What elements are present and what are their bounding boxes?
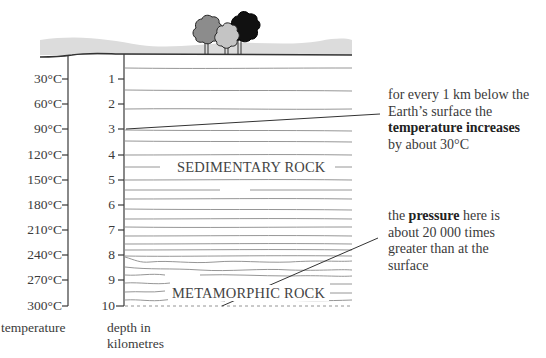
pressure-annotation-pre: the	[388, 208, 409, 223]
depth-axis-title-line1: depth in	[107, 320, 151, 336]
temperature-tick-label: 120°C	[0, 148, 62, 162]
temperature-tick-label: 300°C	[0, 299, 62, 313]
temperature-tick-label: 210°C	[0, 223, 62, 237]
depth-tick-label: 4	[101, 148, 115, 162]
depth-tick-label: 9	[101, 273, 115, 287]
earth-cross-section	[0, 0, 546, 358]
temperature-annotation-line2: Earth’s surface the	[388, 104, 546, 121]
depth-axis-line	[116, 54, 124, 306]
depth-tick-label: 1	[101, 72, 115, 86]
pressure-annotation-line4: surface	[388, 258, 546, 275]
temperature-annotation-line1: for every 1 km below the	[388, 87, 546, 104]
depth-tick-label: 8	[101, 248, 115, 262]
temperature-annotation-line4: by about 30°C	[388, 137, 546, 154]
pressure-annotation-post: here is	[459, 208, 499, 223]
temperature-tick-label: 150°C	[0, 173, 62, 187]
temperature-tick-label: 60°C	[0, 97, 62, 111]
depth-axis-title-line2: kilometres	[107, 336, 164, 352]
pressure-annotation: the pressure here is about 20 000 times …	[388, 208, 546, 274]
depth-tick-label: 7	[101, 223, 115, 237]
sedimentary-rock-label: SEDIMENTARY ROCK	[173, 159, 330, 175]
temperature-tick-label: 270°C	[0, 273, 62, 287]
temperature-tick-label: 90°C	[0, 122, 62, 136]
temperature-leader-line	[126, 114, 380, 129]
strata-lines	[125, 68, 352, 301]
depth-tick-label: 2	[101, 97, 115, 111]
temperature-annotation: for every 1 km below the Earth’s surface…	[388, 87, 546, 153]
depth-tick-label: 3	[101, 122, 115, 136]
temperature-tick-label: 180°C	[0, 198, 62, 212]
temperature-increases-emphasis: temperature increases	[388, 120, 520, 135]
temperature-tick-label: 240°C	[0, 248, 62, 262]
pressure-annotation-line2: about 20 000 times	[388, 225, 546, 242]
depth-tick-label: 6	[101, 198, 115, 212]
pressure-annotation-line3: greater than at the	[388, 241, 546, 258]
temperature-tick-label: 30°C	[0, 72, 62, 86]
temperature-axis-line	[62, 56, 68, 306]
metamorphic-rock-label: METAMORPHIC ROCK	[168, 285, 329, 301]
temperature-axis-title: temperature	[1, 320, 65, 336]
light-grey-tree-icon	[215, 23, 240, 48]
depth-tick-label: 10	[97, 299, 115, 313]
pressure-emphasis: pressure	[409, 208, 460, 223]
depth-tick-label: 5	[101, 173, 115, 187]
